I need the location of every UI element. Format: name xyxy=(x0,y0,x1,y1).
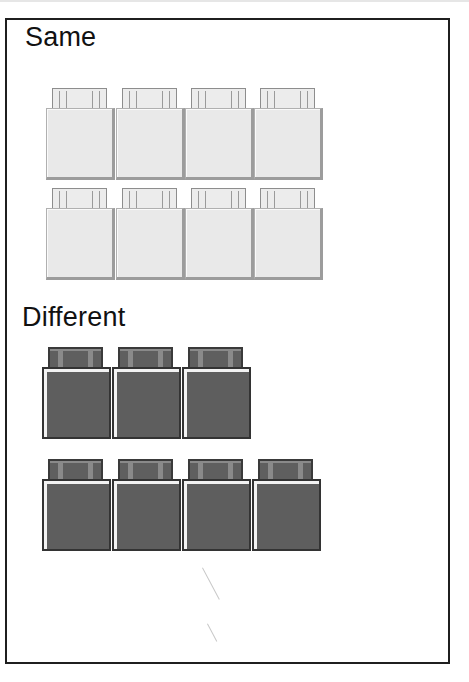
brick-body xyxy=(254,108,323,180)
dark-brick xyxy=(42,347,111,439)
brick-stud xyxy=(258,459,313,479)
brick-stud xyxy=(260,88,315,108)
dark-brick xyxy=(112,459,181,551)
brick-stud xyxy=(48,347,103,367)
dark-brick xyxy=(112,347,181,439)
brick-stud xyxy=(118,347,173,367)
brick-stud xyxy=(122,88,177,108)
brick-body xyxy=(185,108,254,180)
brick-stud xyxy=(52,188,107,208)
light-brick xyxy=(254,188,323,280)
brick-stud xyxy=(191,188,246,208)
brick-body xyxy=(46,108,115,180)
dark-brick xyxy=(42,459,111,551)
brick-body xyxy=(116,208,185,280)
light-brick xyxy=(116,188,185,280)
brick-body xyxy=(185,208,254,280)
brick-body xyxy=(182,479,251,551)
brick-body xyxy=(254,208,323,280)
brick-body xyxy=(252,479,321,551)
light-brick xyxy=(46,188,115,280)
brick-body xyxy=(42,479,111,551)
brick-body xyxy=(116,108,185,180)
brick-body xyxy=(42,367,111,439)
brick-stud xyxy=(191,88,246,108)
dark-brick xyxy=(182,459,251,551)
brick-stud xyxy=(188,347,243,367)
brick-body xyxy=(112,367,181,439)
light-brick xyxy=(116,88,185,180)
brick-body xyxy=(46,208,115,280)
brick-stud xyxy=(48,459,103,479)
heading-same: Same xyxy=(25,22,96,53)
light-brick xyxy=(185,88,254,180)
brick-stud xyxy=(52,88,107,108)
brick-stud xyxy=(260,188,315,208)
top-edge-line xyxy=(0,0,469,2)
brick-body xyxy=(112,479,181,551)
brick-stud xyxy=(188,459,243,479)
light-brick xyxy=(254,88,323,180)
heading-different: Different xyxy=(22,302,125,333)
dark-brick xyxy=(182,347,251,439)
light-brick xyxy=(185,188,254,280)
light-brick xyxy=(46,88,115,180)
brick-body xyxy=(182,367,251,439)
dark-brick xyxy=(252,459,321,551)
brick-stud xyxy=(118,459,173,479)
brick-stud xyxy=(122,188,177,208)
